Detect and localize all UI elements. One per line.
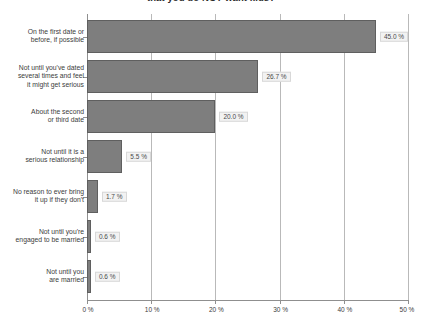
x-tick-label: 30 % bbox=[273, 306, 288, 313]
category-label: About the second or third date bbox=[0, 108, 84, 125]
category-label-line: it up if they don't bbox=[0, 197, 84, 206]
bar-value-label: 0.6 % bbox=[95, 231, 120, 242]
category-label: Not until you're engaged to be married bbox=[0, 228, 84, 245]
bar[interactable] bbox=[87, 100, 215, 133]
category-label: Not until you are married bbox=[0, 268, 84, 285]
bar-row: 0.6 % bbox=[87, 220, 408, 253]
bar-value-label: 1.7 % bbox=[102, 191, 127, 202]
x-tick-label: 10 % bbox=[145, 306, 160, 313]
bar[interactable] bbox=[87, 60, 258, 93]
bar-value-label: 5.5 % bbox=[126, 151, 151, 162]
x-tick bbox=[344, 300, 345, 304]
x-tick-label: 20 % bbox=[209, 306, 224, 313]
x-tick bbox=[280, 300, 281, 304]
category-label: On the first date or before, if possible bbox=[0, 28, 84, 45]
bar-value-label: 0.6 % bbox=[95, 271, 120, 282]
x-tick bbox=[151, 300, 152, 304]
x-tick-label: 40 % bbox=[337, 306, 352, 313]
bar-row: 45.0 % bbox=[87, 20, 408, 53]
bar-row: 0.6 % bbox=[87, 260, 408, 293]
x-tick bbox=[215, 300, 216, 304]
category-label-line: it might get serious bbox=[0, 81, 84, 90]
bar-row: 20.0 % bbox=[87, 100, 408, 133]
bar-chart: that you do NOT want kids? 45.0 % 26.7 %… bbox=[0, 0, 422, 332]
bar[interactable] bbox=[87, 220, 91, 253]
category-label-line: several times and feel bbox=[0, 72, 84, 81]
category-label: No reason to ever bring it up if they do… bbox=[0, 188, 84, 205]
bar-row: 1.7 % bbox=[87, 180, 408, 213]
category-label-line: Not until you're bbox=[0, 228, 84, 237]
category-label-line: Not until you bbox=[0, 268, 84, 277]
category-label: Not until it is a serious relationship bbox=[0, 148, 84, 165]
x-tick bbox=[408, 300, 409, 304]
category-label-line: On the first date or bbox=[0, 28, 84, 37]
bar-value-label: 45.0 % bbox=[380, 31, 408, 42]
bar[interactable] bbox=[87, 140, 122, 173]
plot-area: 45.0 % 26.7 % 20.0 % 5.5 % 1.7 % 0.6 % 0… bbox=[87, 14, 408, 300]
x-tick-label: 0 % bbox=[82, 306, 93, 313]
chart-title: that you do NOT want kids? bbox=[0, 0, 422, 3]
category-label-line: engaged to be married bbox=[0, 237, 84, 246]
bar-value-label: 26.7 % bbox=[262, 71, 290, 82]
category-label-line: About the second bbox=[0, 108, 84, 117]
category-label: Not until you've dated several times and… bbox=[0, 64, 84, 90]
x-tick bbox=[87, 300, 88, 304]
bar-row: 26.7 % bbox=[87, 60, 408, 93]
category-label-line: are married bbox=[0, 277, 84, 286]
bar[interactable] bbox=[87, 180, 98, 213]
bar[interactable] bbox=[87, 20, 376, 53]
category-label-line: No reason to ever bring bbox=[0, 188, 84, 197]
bar-value-label: 20.0 % bbox=[219, 111, 247, 122]
category-label-line: serious relationship bbox=[0, 157, 84, 166]
category-label-line: or third date bbox=[0, 117, 84, 126]
x-axis-line bbox=[87, 300, 409, 301]
category-label-line: before, if possible bbox=[0, 37, 84, 46]
bar-row: 5.5 % bbox=[87, 140, 408, 173]
x-tick-label: 50 % bbox=[400, 306, 415, 313]
category-label-line: Not until it is a bbox=[0, 148, 84, 157]
bar[interactable] bbox=[87, 260, 91, 293]
category-label-line: Not until you've dated bbox=[0, 64, 84, 73]
